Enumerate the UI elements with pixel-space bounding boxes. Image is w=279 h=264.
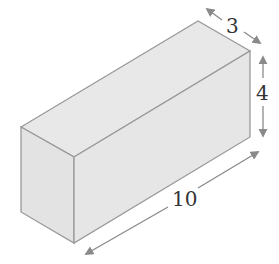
height-label: 4 [256,81,269,105]
depth-arrow-left [207,9,222,20]
length-label: 10 [172,187,197,211]
depth-arrow-right [244,32,260,43]
prism-diagram: 3 4 10 [0,0,279,264]
depth-label: 3 [226,14,239,38]
diagram-canvas: 3 4 10 [0,0,279,264]
